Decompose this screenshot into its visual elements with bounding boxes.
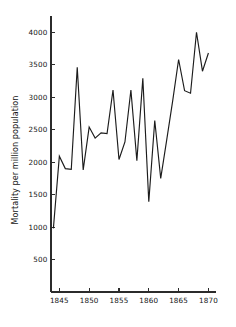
y-axis-tick-labels: 5001000150020002500300035004000 <box>29 28 48 264</box>
y-tick-label: 2000 <box>29 158 48 167</box>
x-tick-label: 1860 <box>139 296 158 305</box>
tick-marks <box>51 32 208 292</box>
y-tick-label: 3500 <box>29 60 48 69</box>
x-axis-tick-labels: 184518501855186018651870 <box>50 296 218 305</box>
y-tick-label: 2500 <box>29 125 48 134</box>
x-tick-label: 1870 <box>199 296 218 305</box>
data-series-group <box>53 32 208 228</box>
x-tick-label: 1865 <box>169 296 188 305</box>
y-tick-label: 1000 <box>29 223 48 232</box>
y-tick-label: 500 <box>33 255 47 264</box>
y-axis-title: Mortality per million population <box>11 96 20 225</box>
chart-figure: 5001000150020002500300035004000 18451850… <box>0 0 236 327</box>
chart-axes <box>51 16 216 292</box>
x-tick-label: 1845 <box>50 296 69 305</box>
x-tick-label: 1855 <box>110 296 129 305</box>
mortality-data-line <box>53 32 208 228</box>
x-tick-label: 1850 <box>80 296 99 305</box>
y-tick-label: 3000 <box>29 93 48 102</box>
y-tick-label: 1500 <box>29 190 48 199</box>
y-tick-label: 4000 <box>29 28 48 37</box>
mortality-line-chart: 5001000150020002500300035004000 18451850… <box>0 0 236 327</box>
